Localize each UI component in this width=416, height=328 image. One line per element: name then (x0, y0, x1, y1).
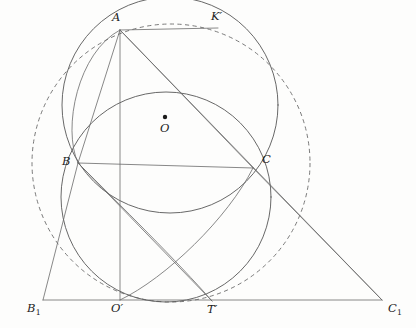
segment-B-B1 (43, 163, 78, 300)
point-label-Tp: T′ (207, 304, 217, 316)
vertex-dot-O (163, 115, 167, 119)
point-label-K1: K′ (211, 11, 222, 23)
point-label-C1: C1 (388, 303, 402, 315)
geometry-figure: AK′OBCB1O′T′C1 (0, 0, 416, 328)
arc-arc-B-A-left (72, 30, 120, 163)
arc-arc-C-Op (120, 168, 253, 300)
segment-B-C (78, 163, 253, 168)
segment-C-C1 (253, 168, 382, 300)
segment-A-B (78, 30, 120, 163)
point-label-B1: B1 (27, 303, 40, 315)
point-label-Op: O′ (111, 303, 123, 315)
point-label-O: O (160, 123, 169, 135)
point-label-B: B (62, 156, 70, 168)
point-label-C: C (262, 154, 271, 166)
segment-B-Tp (78, 163, 212, 301)
point-label-A: A (112, 12, 120, 24)
